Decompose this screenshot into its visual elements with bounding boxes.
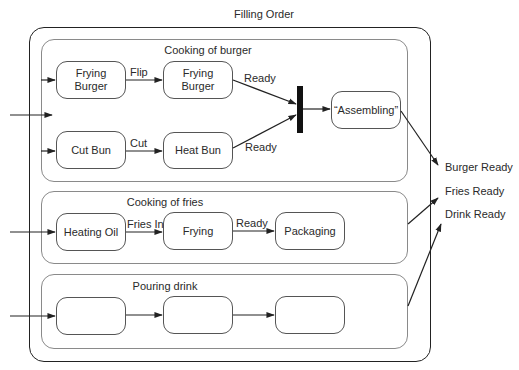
output-drink-ready: Drink Ready — [445, 208, 506, 220]
transition-label-cut: Cut — [130, 137, 147, 149]
transition-arrows — [0, 0, 519, 370]
transition-label-flip: Flip — [130, 66, 148, 78]
transition-label-fries-ready: Ready — [236, 217, 268, 229]
output-burger-ready: Burger Ready — [445, 161, 513, 173]
transition-label-ready-top: Ready — [244, 72, 276, 84]
output-fries-ready: Fries Ready — [445, 185, 504, 197]
transition-label-ready-bottom: Ready — [245, 141, 277, 153]
transition-label-fries-in: Fries In — [127, 218, 164, 230]
